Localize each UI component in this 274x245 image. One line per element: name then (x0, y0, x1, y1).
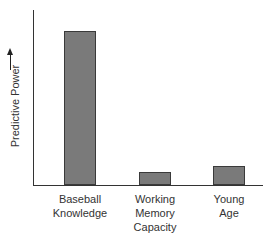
bar-baseball-knowledge (64, 31, 96, 185)
bar-young-age (213, 166, 245, 185)
label-line: Capacity (115, 220, 195, 234)
label-line: Knowledge (40, 206, 120, 220)
label-line: Working (115, 192, 195, 206)
x-tick-label-working-memory-capacity: Working Memory Capacity (115, 192, 195, 234)
label-line: Age (189, 206, 269, 220)
label-line: Young (189, 192, 269, 206)
up-arrow-shaft (10, 54, 11, 70)
x-tick-label-young-age: Young Age (189, 192, 269, 220)
label-line: Memory (115, 206, 195, 220)
x-tick-label-baseball-knowledge: Baseball Knowledge (40, 192, 120, 220)
label-line: Baseball (40, 192, 120, 206)
x-axis (33, 185, 263, 186)
bar-working-memory-capacity (139, 172, 171, 185)
y-axis (33, 10, 34, 186)
